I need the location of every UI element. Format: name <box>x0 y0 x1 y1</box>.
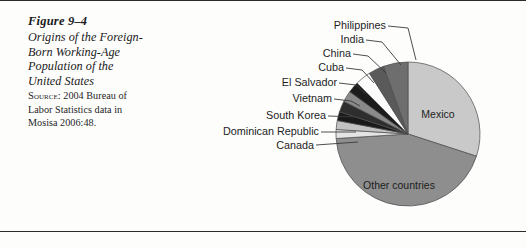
figure-number: Figure 9–4 <box>28 14 178 29</box>
pie-chart-svg: Philippines India China Cuba El Salvador… <box>170 4 526 228</box>
callout-label-cuba: Cuba <box>318 61 344 73</box>
callout-label-el-salvador: El Salvador <box>282 76 338 88</box>
figure-title-line-2: Born Working-Age <box>28 45 178 60</box>
pie-chart: Philippines India China Cuba El Salvador… <box>170 4 526 228</box>
callout-label-vietnam: Vietnam <box>293 92 332 104</box>
bottom-divider-rule <box>0 231 526 232</box>
figure-title-line-1: Origins of the Foreign- <box>28 30 178 45</box>
figure-title: Origins of the Foreign- Born Working-Age… <box>28 30 178 88</box>
figure-container: Figure 9–4 Origins of the Foreign- Born … <box>0 0 526 248</box>
callout-label-china: China <box>323 47 351 59</box>
source-line-1: 2004 Bureau of <box>63 90 127 101</box>
source-line-2: Labor Statistics data in <box>28 103 178 116</box>
figure-title-line-3: Population of the <box>28 59 178 74</box>
slice-label-other-countries: Other countries <box>363 179 435 191</box>
callout-label-canada: Canada <box>276 139 314 151</box>
callout-label-south-korea: South Korea <box>266 109 326 121</box>
slice-label-mexico: Mexico <box>421 108 454 120</box>
callout-label-philippines: Philippines <box>334 19 387 31</box>
figure-caption: Figure 9–4 Origins of the Foreign- Born … <box>28 14 178 129</box>
figure-source: Source: 2004 Bureau of Labor Statistics … <box>28 89 178 129</box>
leader-line-india <box>366 40 401 65</box>
callout-label-dominican-republic: Dominican Republic <box>223 125 320 137</box>
top-divider-rule <box>0 0 526 1</box>
source-line-3: Mosisa 2006:48. <box>28 116 178 129</box>
figure-title-line-4: United States <box>28 74 178 89</box>
source-prefix: Source: <box>28 90 61 101</box>
callout-label-india: India <box>341 33 364 45</box>
